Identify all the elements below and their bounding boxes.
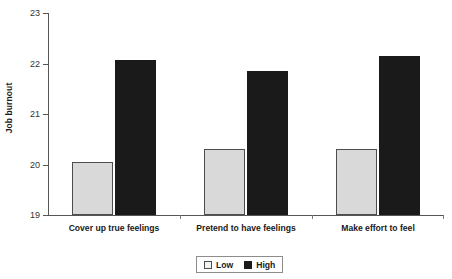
y-tick-mark <box>43 114 48 115</box>
bar-2-high <box>247 71 288 215</box>
y-axis-title: Job burnout <box>0 0 18 216</box>
bar-2-low <box>204 149 245 215</box>
bar-chart: Job burnout 1920212223 Cover up true fee… <box>0 0 452 279</box>
y-tick-mark <box>43 215 48 216</box>
y-tick-mark <box>43 13 48 14</box>
y-tick-mark <box>43 64 48 65</box>
y-tick-mark <box>43 165 48 166</box>
chart-legend: Low High <box>196 256 283 273</box>
legend-swatch-low-icon <box>204 261 212 269</box>
bar-3-low <box>336 149 377 215</box>
legend-item-low: Low <box>204 260 233 270</box>
legend-item-high: High <box>244 260 275 270</box>
x-axis-label-1: Cover up true feelings <box>69 223 160 233</box>
x-axis-group-separator <box>312 215 313 219</box>
y-tick-label: 19 <box>30 210 40 220</box>
y-axis-title-text: Job burnout <box>4 83 14 134</box>
legend-label-low: Low <box>216 260 233 270</box>
bar-1-high <box>115 60 156 215</box>
y-axis-line <box>48 13 49 215</box>
legend-label-high: High <box>256 260 275 270</box>
y-tick-label: 20 <box>30 160 40 170</box>
x-axis-label-2: Pretend to have feelings <box>196 223 295 233</box>
legend-swatch-high-icon <box>244 261 252 269</box>
y-tick-label: 22 <box>30 59 40 69</box>
bar-3-high <box>379 56 420 215</box>
y-tick-label: 21 <box>30 109 40 119</box>
x-axis-label-3: Make effort to feel <box>341 223 415 233</box>
y-tick-label: 23 <box>30 8 40 18</box>
x-axis-group-separator <box>180 215 181 219</box>
bar-1-low <box>72 162 113 215</box>
x-axis-end-tick <box>443 215 444 219</box>
plot-area: 1920212223 <box>48 13 444 215</box>
x-axis-line <box>48 215 444 216</box>
